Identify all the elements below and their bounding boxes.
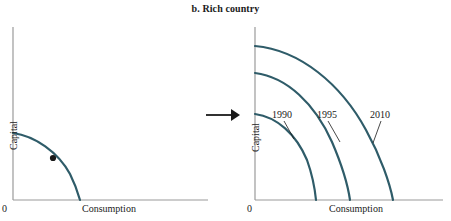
right-frontier-curve-1995 xyxy=(255,73,350,200)
right-origin-label: 0 xyxy=(247,203,252,214)
curve-label-1990: 1990 xyxy=(272,109,292,120)
curve-label-1995: 1995 xyxy=(317,109,337,120)
left-y-axis-label: Capital xyxy=(8,121,19,150)
left-frontier-curve xyxy=(13,133,80,200)
right-x-axis-label: Consumption xyxy=(329,203,383,214)
right-frontier-curve-1990 xyxy=(255,114,316,200)
left-origin-label: 0 xyxy=(2,203,7,214)
curve-label-2010: 2010 xyxy=(370,109,390,120)
leader-line-2010 xyxy=(373,121,381,143)
left-panel-axes xyxy=(13,27,208,200)
transition-arrow-icon xyxy=(206,109,240,121)
left-x-axis-label: Consumption xyxy=(82,203,136,214)
right-frontier-curve-2010 xyxy=(255,46,393,200)
left-frontier-point-marker xyxy=(50,155,56,161)
figure-container: b. Rich country Capital Con xyxy=(0,0,451,221)
right-y-axis-label: Capital xyxy=(250,123,261,152)
